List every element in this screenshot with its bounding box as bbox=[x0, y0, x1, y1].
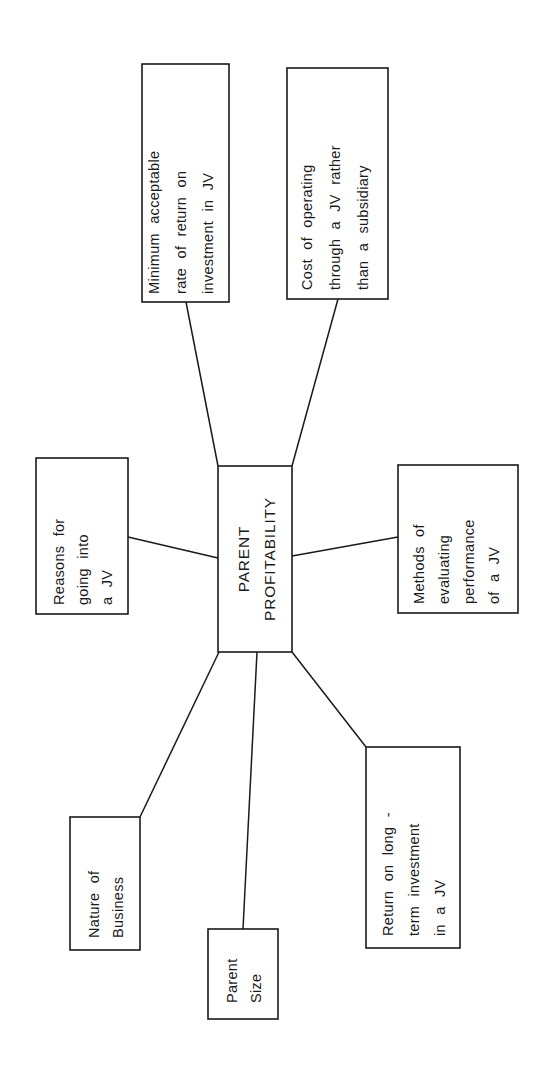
node-label-line: Nature of bbox=[86, 870, 102, 938]
node-parent-size: Parent Size bbox=[208, 929, 278, 1019]
node-reasons: Reasons for going into a JV bbox=[36, 458, 128, 614]
node-label-line: Methods of bbox=[411, 524, 427, 604]
connector-methods bbox=[292, 537, 398, 556]
node-label-line: Minimum acceptable bbox=[146, 151, 162, 294]
node-label-line: of a JV bbox=[486, 547, 502, 604]
node-label-line: through a JV rather bbox=[327, 145, 343, 290]
connector-reasons bbox=[128, 537, 218, 558]
mind-map-diagram: PARENT PROFITABILITY Minimum acceptable … bbox=[0, 0, 542, 1073]
central-node-parent-profitability: PARENT PROFITABILITY bbox=[218, 466, 292, 652]
node-label-line: evaluating bbox=[436, 535, 452, 604]
connector-minimum-return bbox=[186, 302, 218, 466]
connector-cost-of-operating bbox=[292, 299, 338, 466]
central-label-line-2: PROFITABILITY bbox=[261, 497, 278, 621]
node-nature: Nature of Business bbox=[70, 817, 140, 950]
node-methods: Methods of evaluating performance of a J… bbox=[398, 465, 518, 613]
node-label-line: a JV bbox=[99, 570, 115, 605]
node-label-line: term investment bbox=[406, 823, 422, 936]
node-label-line: Parent bbox=[224, 958, 240, 1003]
node-label-line: going into bbox=[75, 534, 91, 605]
node-label-line: in a JV bbox=[432, 880, 448, 936]
connector-return-long-term bbox=[292, 652, 366, 747]
connector-parent-size bbox=[243, 652, 257, 929]
node-label-line: Business bbox=[110, 877, 126, 938]
node-label-line: Reasons for bbox=[51, 519, 67, 605]
node-label-line: than a subsidiary bbox=[355, 165, 371, 290]
central-label-line-1: PARENT bbox=[235, 526, 252, 593]
node-cost-of-operating: Cost of operating through a JV rather th… bbox=[287, 68, 388, 299]
node-minimum-return: Minimum acceptable rate of return on inv… bbox=[142, 64, 229, 302]
node-label-line: Size bbox=[248, 974, 264, 1003]
node-label-line: Return on long - bbox=[380, 812, 396, 936]
node-label-line: rate of return on bbox=[173, 171, 189, 294]
node-label-line: investment in JV bbox=[200, 173, 216, 294]
node-label-line: Cost of operating bbox=[299, 164, 315, 290]
node-label-line: performance bbox=[461, 519, 477, 604]
connector-nature bbox=[140, 652, 219, 817]
node-return-long-term: Return on long - term investment in a JV bbox=[366, 747, 460, 948]
